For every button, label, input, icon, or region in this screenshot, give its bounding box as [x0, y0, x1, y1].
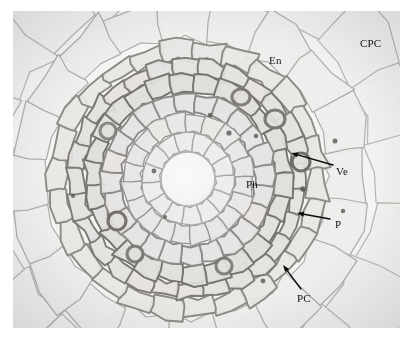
label-p: P — [335, 219, 341, 230]
micrograph-figure: CPC En Ve Ph P PC — [0, 0, 415, 344]
label-en: En — [269, 55, 282, 66]
label-cpc: CPC — [360, 38, 381, 49]
label-ve: Ve — [336, 166, 348, 177]
label-ph: Ph — [246, 179, 258, 190]
label-pc: PC — [297, 293, 311, 304]
